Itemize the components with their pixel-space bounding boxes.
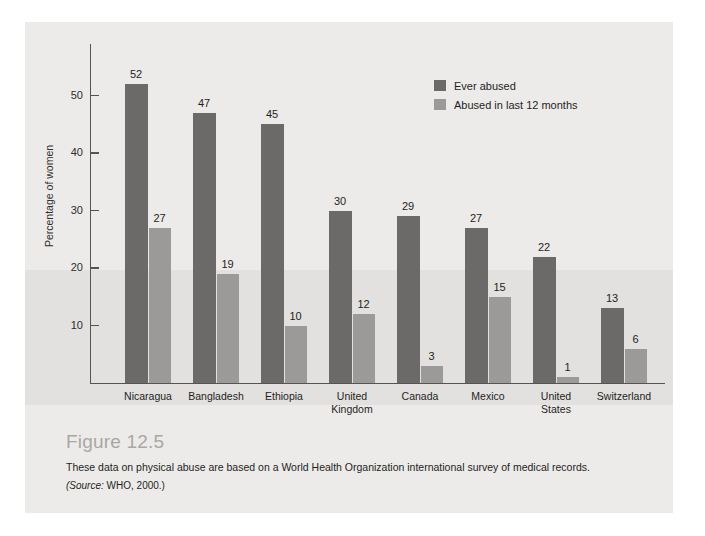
y-tick-label-40: 40	[53, 147, 83, 158]
legend-swatch-icon-ever-abused	[434, 80, 446, 91]
bar-value-label: 13	[593, 293, 632, 304]
bar-value-label: 10	[277, 311, 315, 322]
y-tick-mark-40	[91, 152, 99, 153]
bar-value-label: 12	[345, 299, 383, 310]
legend-swatch-icon-abused-last-12-months	[434, 99, 446, 110]
y-tick-mark-50	[91, 95, 99, 96]
bar-value-label: 6	[617, 334, 655, 345]
bar-bangladesh-series-1	[193, 113, 216, 383]
bar-mexico-series-1	[465, 228, 488, 383]
legend-item-ever-abused: Ever abused	[434, 79, 578, 92]
figure-source-lead: (Source:	[66, 480, 104, 491]
bar-value-label: 47	[185, 98, 224, 109]
bar-switzerland-series-2	[625, 349, 647, 384]
legend-item-abused-last-12-months: Abused in last 12 months	[434, 98, 578, 111]
bar-chart-plot-area: Percentage of women 1020304050 522747194…	[25, 22, 673, 405]
figure-source-rest: WHO, 2000.)	[104, 480, 165, 491]
bar-value-label: 22	[525, 242, 564, 253]
y-tick-label-30: 30	[53, 205, 83, 216]
bar-switzerland-series-1	[601, 308, 624, 383]
bar-united-kingdom-series-2	[353, 314, 375, 383]
bar-value-label: 30	[321, 196, 360, 207]
figure-description: These data on physical abuse are based o…	[66, 461, 656, 474]
bar-value-label: 27	[457, 213, 496, 224]
y-tick-label-50: 50	[53, 90, 83, 101]
bar-value-label: 1	[549, 362, 587, 373]
bar-value-label: 15	[481, 282, 519, 293]
bar-canada-series-2	[421, 366, 443, 383]
bar-united-kingdom-series-1	[329, 211, 352, 384]
y-tick-label-20: 20	[53, 262, 83, 273]
y-tick-label-10: 10	[53, 320, 83, 331]
figure-panel: Percentage of women 1020304050 522747194…	[25, 22, 673, 513]
y-tick-mark-20	[91, 267, 99, 268]
figure-number: Figure 12.5	[66, 432, 656, 452]
bar-value-label: 52	[117, 69, 156, 80]
bar-mexico-series-2	[489, 297, 511, 383]
bar-bangladesh-series-2	[217, 274, 239, 383]
bar-value-label: 3	[413, 351, 451, 362]
bar-nicaragua-series-2	[149, 228, 171, 383]
y-tick-mark-10	[91, 325, 99, 326]
legend-label-ever-abused: Ever abused	[454, 80, 516, 92]
bar-nicaragua-series-1	[125, 84, 148, 383]
category-label-switzerland: Switzerland	[584, 390, 664, 403]
figure-source: (Source: WHO, 2000.)	[66, 480, 656, 492]
figure-caption: Figure 12.5 These data on physical abuse…	[66, 432, 656, 492]
x-axis-line	[90, 383, 665, 384]
chart-legend: Ever abused Abused in last 12 months	[434, 79, 578, 117]
bar-value-label: 19	[209, 259, 247, 270]
bar-ethiopia-series-2	[285, 326, 307, 384]
bar-united-states-series-2	[557, 377, 579, 383]
bar-value-label: 27	[141, 213, 179, 224]
legend-label-abused-last-12-months: Abused in last 12 months	[454, 99, 578, 111]
bar-value-label: 29	[389, 201, 428, 212]
y-tick-mark-30	[91, 210, 99, 211]
bar-value-label: 45	[253, 109, 292, 120]
bar-ethiopia-series-1	[261, 124, 284, 383]
